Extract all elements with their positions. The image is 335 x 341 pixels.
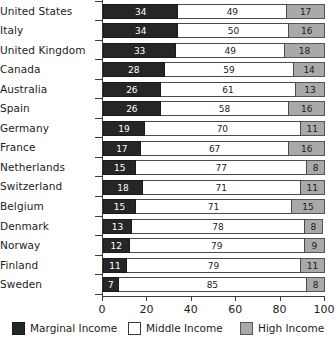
- legend-swatch-dark: [12, 322, 25, 335]
- category-label: Germany: [0, 119, 96, 139]
- legend-item[interactable]: Middle Income: [128, 318, 223, 338]
- bar-segment-high-income: 11: [301, 121, 325, 136]
- legend-label: High Income: [258, 322, 324, 334]
- x-axis-tick-label: 40: [171, 303, 211, 316]
- y-axis-tick: [95, 216, 102, 217]
- chart-row: Spain265816: [0, 99, 335, 119]
- bar-segment-high-income: 11: [301, 258, 325, 273]
- stacked-bar: 345016: [103, 23, 325, 38]
- bar-segment-high-income: 13: [296, 82, 325, 97]
- bar-segment-high-income: 16: [289, 23, 325, 38]
- bar-segment-high-income: 15: [292, 199, 325, 214]
- legend-swatch-white: [128, 322, 141, 335]
- bar-segment-marginal-income: 17: [103, 141, 141, 156]
- chart-row: Norway12799: [0, 236, 335, 256]
- bar-segment-middle-income: 49: [178, 4, 287, 19]
- bar-segment-middle-income: 71: [143, 180, 301, 195]
- x-axis-tick: [235, 296, 236, 301]
- category-label: Denmark: [0, 217, 96, 237]
- y-axis-tick: [95, 176, 102, 177]
- bar-segment-middle-income: 71: [136, 199, 292, 214]
- category-label: United States: [0, 2, 96, 22]
- x-axis-tick-label: 100: [304, 303, 335, 316]
- chart-row: United Kingdom334918: [0, 41, 335, 61]
- bar-segment-marginal-income: 26: [103, 82, 161, 97]
- x-axis-tick-label: 20: [126, 303, 166, 316]
- bar-segment-middle-income: 61: [161, 82, 296, 97]
- stacked-bar: 157115: [103, 199, 325, 214]
- stacked-bar: 197011: [103, 121, 325, 136]
- bar-segment-marginal-income: 15: [103, 160, 136, 175]
- bar-segment-middle-income: 85: [119, 277, 308, 292]
- bar-segment-middle-income: 70: [145, 121, 300, 136]
- chart-row: Australia266113: [0, 80, 335, 100]
- stacked-bar: 12799: [103, 238, 325, 253]
- category-label: Australia: [0, 80, 96, 100]
- chart-legend: Marginal IncomeMiddle IncomeHigh Income: [0, 318, 335, 341]
- legend-item[interactable]: Marginal Income: [12, 318, 117, 338]
- bar-segment-high-income: 18: [285, 43, 325, 58]
- bar-segment-high-income: 8: [305, 219, 323, 234]
- stacked-bar: 13788: [103, 219, 325, 234]
- chart-row: Finland117911: [0, 256, 335, 276]
- plot-area: United States344917Italy345016United Kin…: [0, 0, 335, 300]
- stacked-bar-chart: United States344917Italy345016United Kin…: [0, 0, 335, 341]
- stacked-bar: 334918: [103, 43, 325, 58]
- stacked-bar: 344917: [103, 4, 325, 19]
- category-label: Belgium: [0, 197, 96, 217]
- legend-item[interactable]: High Income: [240, 318, 324, 338]
- y-axis-tick: [95, 40, 102, 41]
- legend-swatch-gray: [240, 322, 253, 335]
- bar-segment-middle-income: 77: [136, 160, 307, 175]
- x-axis-tick: [280, 296, 281, 301]
- y-axis-tick: [95, 294, 102, 295]
- bar-segment-marginal-income: 18: [103, 180, 143, 195]
- category-label: Netherlands: [0, 158, 96, 178]
- bar-segment-high-income: 17: [287, 4, 325, 19]
- legend-label: Middle Income: [146, 322, 223, 334]
- chart-row: Sweden7858: [0, 275, 335, 295]
- stacked-bar: 266113: [103, 82, 325, 97]
- x-axis-tick-label: 60: [215, 303, 255, 316]
- bar-segment-middle-income: 50: [178, 23, 289, 38]
- y-axis-tick: [95, 1, 102, 2]
- y-axis-tick: [95, 235, 102, 236]
- y-axis-tick: [95, 137, 102, 138]
- chart-row: Denmark13788: [0, 217, 335, 237]
- legend-label: Marginal Income: [30, 322, 117, 334]
- x-axis-line: [102, 296, 325, 297]
- category-label: Norway: [0, 236, 96, 256]
- bar-segment-marginal-income: 12: [103, 238, 130, 253]
- x-axis-tick-label: 80: [260, 303, 300, 316]
- chart-row: Germany197011: [0, 119, 335, 139]
- bar-segment-middle-income: 78: [132, 219, 305, 234]
- bar-segment-middle-income: 49: [176, 43, 285, 58]
- category-label: Switzerland: [0, 177, 96, 197]
- bar-segment-marginal-income: 11: [103, 258, 127, 273]
- bar-segment-marginal-income: 33: [103, 43, 176, 58]
- y-axis-tick: [95, 79, 102, 80]
- stacked-bar: 187111: [103, 180, 325, 195]
- stacked-bar: 176716: [103, 141, 325, 156]
- y-axis-tick: [95, 98, 102, 99]
- category-label: Canada: [0, 60, 96, 80]
- chart-row: Netherlands15778: [0, 158, 335, 178]
- stacked-bar: 117911: [103, 258, 325, 273]
- chart-row: United States344917: [0, 2, 335, 22]
- bar-segment-middle-income: 59: [165, 62, 295, 77]
- y-axis-tick: [95, 118, 102, 119]
- x-axis-tick: [191, 296, 192, 301]
- bar-segment-marginal-income: 15: [103, 199, 136, 214]
- chart-row: Belgium157115: [0, 197, 335, 217]
- y-axis-tick: [95, 157, 102, 158]
- bar-segment-high-income: 8: [307, 277, 325, 292]
- bar-segment-marginal-income: 34: [103, 23, 178, 38]
- bar-segment-marginal-income: 34: [103, 4, 178, 19]
- x-axis-tick: [102, 296, 103, 301]
- x-axis-tick-label: 0: [82, 303, 122, 316]
- category-label: Italy: [0, 21, 96, 41]
- category-label: United Kingdom: [0, 41, 96, 61]
- category-label: Finland: [0, 256, 96, 276]
- y-axis-tick: [95, 255, 102, 256]
- bar-segment-marginal-income: 7: [103, 277, 119, 292]
